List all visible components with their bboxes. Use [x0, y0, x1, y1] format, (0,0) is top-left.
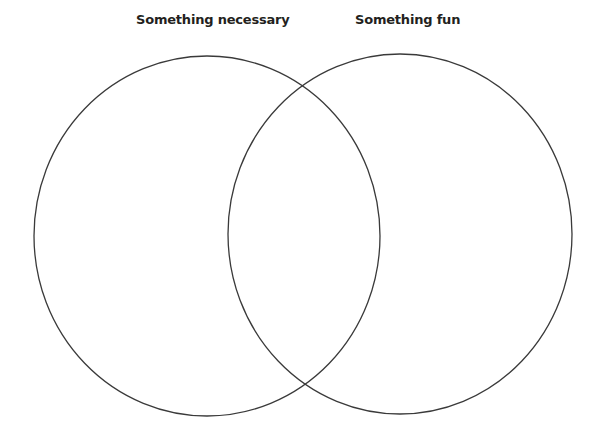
circle-something-necessary [34, 56, 380, 416]
venn-diagram [0, 0, 596, 440]
circle-something-fun [228, 54, 572, 414]
